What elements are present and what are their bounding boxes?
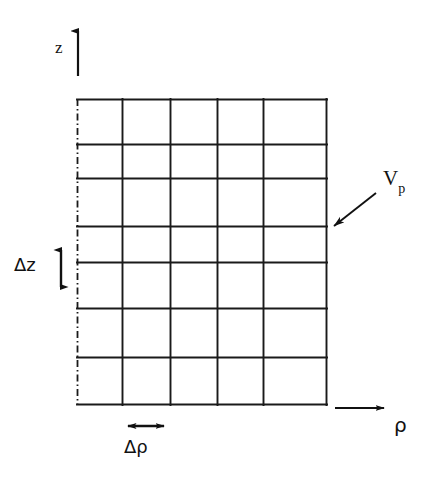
diagram-canvas: z ρ Δz Δρ Vp: [0, 0, 432, 481]
mesh-horizontal-lines: [77, 100, 327, 405]
diagram-vector-layer: [0, 0, 432, 481]
delta-rho-label: Δρ: [124, 438, 148, 456]
control-volume-label-subscript: p: [398, 181, 405, 196]
control-volume-pointer-arrow: [334, 193, 376, 226]
rho-axis-label: ρ: [394, 415, 407, 435]
delta-z-label: Δz: [14, 256, 36, 274]
control-volume-label-main: V: [383, 166, 398, 190]
z-axis-label: z: [55, 39, 63, 56]
control-volume-label: Vp: [383, 168, 405, 193]
